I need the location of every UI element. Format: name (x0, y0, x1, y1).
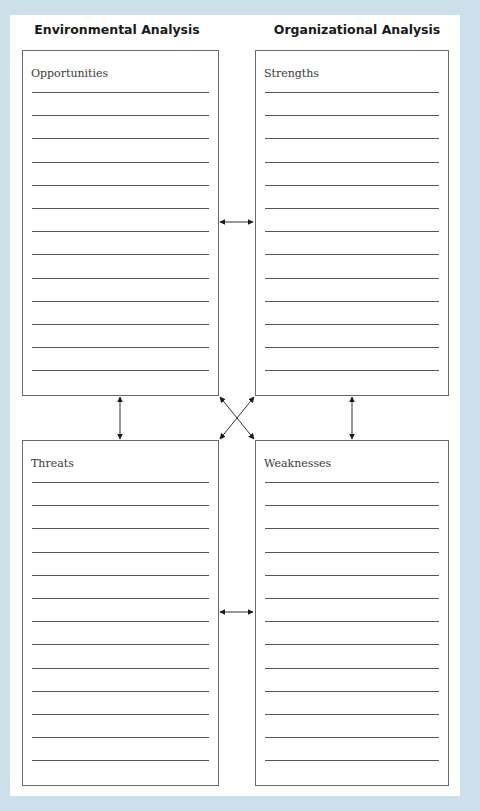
weaknesses-title: Weaknesses (264, 457, 331, 470)
threats-title: Threats (31, 457, 74, 470)
strengths-writing-line (265, 231, 439, 232)
weaknesses-writing-line (265, 760, 439, 761)
weaknesses-writing-line (265, 668, 439, 669)
opportunities-writing-line (32, 138, 209, 139)
strengths-writing-line (265, 162, 439, 163)
weaknesses-writing-line (265, 714, 439, 715)
threats-writing-line (32, 760, 209, 761)
strengths-writing-line (265, 278, 439, 279)
weaknesses-writing-line (265, 482, 439, 483)
opportunities-writing-line (32, 254, 209, 255)
threats-writing-line (32, 552, 209, 553)
threats-writing-line (32, 598, 209, 599)
weaknesses-writing-line (265, 598, 439, 599)
weaknesses-box: Weaknesses (255, 440, 449, 786)
strengths-writing-line (265, 301, 439, 302)
weaknesses-writing-line (265, 552, 439, 553)
weaknesses-writing-line (265, 644, 439, 645)
opportunities-writing-line (32, 92, 209, 93)
environmental-analysis-heading: Environmental Analysis (34, 22, 200, 37)
strengths-writing-line (265, 138, 439, 139)
threats-writing-line (32, 644, 209, 645)
threats-writing-line (32, 691, 209, 692)
opportunities-writing-line (32, 301, 209, 302)
opportunities-writing-line (32, 185, 209, 186)
strengths-writing-line (265, 324, 439, 325)
opportunities-box: Opportunities (22, 50, 219, 396)
strengths-writing-line (265, 185, 439, 186)
strengths-writing-line (265, 92, 439, 93)
weaknesses-writing-line (265, 505, 439, 506)
strengths-writing-line (265, 254, 439, 255)
strengths-writing-line (265, 370, 439, 371)
strengths-box: Strengths (255, 50, 449, 396)
strengths-writing-line (265, 208, 439, 209)
opportunities-writing-line (32, 115, 209, 116)
threats-writing-line (32, 737, 209, 738)
threats-writing-line (32, 714, 209, 715)
threats-writing-line (32, 668, 209, 669)
weaknesses-writing-line (265, 575, 439, 576)
threats-writing-line (32, 528, 209, 529)
opportunities-writing-line (32, 278, 209, 279)
weaknesses-writing-line (265, 737, 439, 738)
opportunities-writing-line (32, 162, 209, 163)
opportunities-writing-line (32, 324, 209, 325)
opportunities-writing-line (32, 347, 209, 348)
strengths-writing-line (265, 115, 439, 116)
opportunities-writing-line (32, 208, 209, 209)
weaknesses-writing-line (265, 621, 439, 622)
threats-writing-line (32, 575, 209, 576)
strengths-title: Strengths (264, 67, 319, 80)
threats-writing-line (32, 621, 209, 622)
strengths-writing-line (265, 347, 439, 348)
threats-writing-line (32, 505, 209, 506)
weaknesses-writing-line (265, 691, 439, 692)
threats-writing-line (32, 482, 209, 483)
opportunities-title: Opportunities (31, 67, 108, 80)
threats-box: Threats (22, 440, 219, 786)
weaknesses-writing-line (265, 528, 439, 529)
opportunities-writing-line (32, 231, 209, 232)
opportunities-writing-line (32, 370, 209, 371)
organizational-analysis-heading: Organizational Analysis (274, 22, 441, 37)
